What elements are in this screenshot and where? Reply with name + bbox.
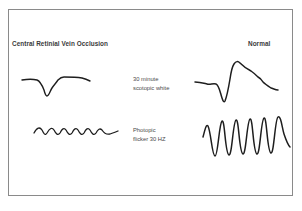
crvo-flicker-waveform [34,128,118,134]
normal-scotopic-waveform [195,62,278,102]
waveform-canvas [0,0,302,211]
normal-flicker-waveform [203,117,290,156]
crvo-scotopic-waveform [22,77,90,96]
